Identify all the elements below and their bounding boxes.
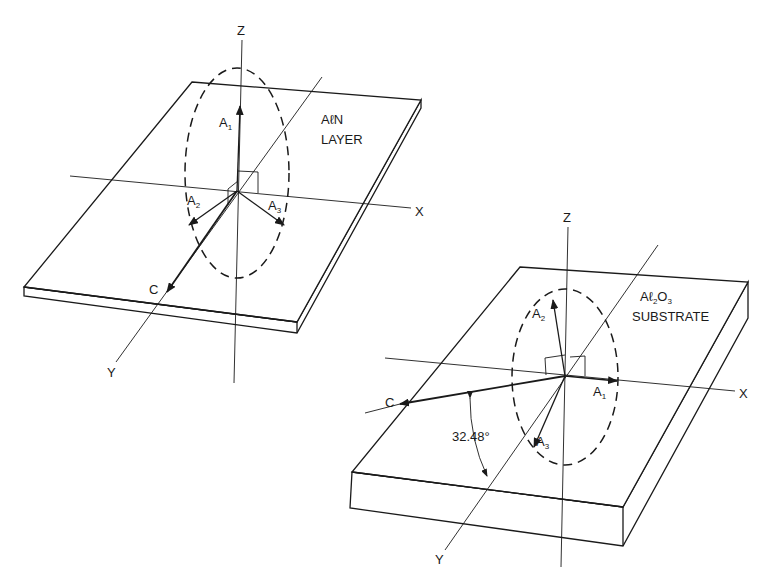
aln-x-label: X	[415, 204, 424, 219]
al2o3-z-label: Z	[563, 210, 571, 225]
al2o3-y-label: Y	[435, 552, 444, 567]
aln-layer-diagram: Z X Y A1 A2 A3 C AℓN LAYER	[24, 23, 424, 383]
aln-title-line1: AℓN	[321, 112, 343, 127]
al2o3-c-label: C	[385, 395, 394, 410]
aln-title-line2: LAYER	[321, 132, 363, 147]
al2o3-substrate-diagram: Z X Y A2 A1 A3 C 32.48° Aℓ2O3 SUBSTRATE	[350, 210, 748, 567]
al2o3-title-line2: SUBSTRATE	[632, 309, 709, 324]
angle-label: 32.48°	[452, 429, 490, 444]
al2o3-x-label: X	[739, 386, 748, 401]
aln-c-label: C	[149, 282, 158, 297]
aln-y-label: Y	[107, 365, 116, 380]
crystal-orientation-diagram: Z X Y A1 A2 A3 C AℓN LAYER	[0, 0, 758, 588]
aln-z-label: Z	[237, 23, 245, 38]
